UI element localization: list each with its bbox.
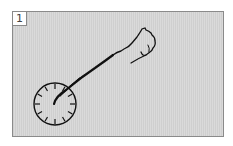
clock-arm-illustration [0, 0, 233, 146]
arm-line-icon [54, 28, 155, 104]
